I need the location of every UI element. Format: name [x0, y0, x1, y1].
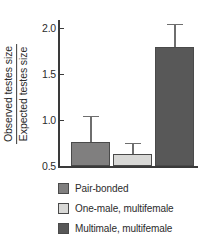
y-axis-tick-labels: 2.0 1.5 1.0 0.5	[30, 0, 56, 180]
y-axis-title-denominator: Expected testes size	[17, 44, 30, 144]
y-tick-mark-1-0	[60, 120, 65, 121]
plot-area	[58, 20, 198, 168]
y-tick-label-1-0: 1.0	[30, 115, 56, 125]
y-tick-label-2-0: 2.0	[30, 23, 56, 33]
error-bar-stem-pair-bonded	[90, 117, 91, 143]
y-tick-mark-1-5	[60, 74, 65, 75]
legend-swatch-one-male-multifemale	[58, 203, 69, 214]
y-axis-line	[58, 20, 60, 168]
legend-swatch-multimale-multifemale	[58, 223, 69, 234]
legend-item-pair-bonded: Pair-bonded	[58, 178, 206, 198]
y-axis-title-numerator: Observed testes size	[3, 44, 17, 144]
error-bar-cap-one-male-multifemale	[125, 143, 141, 144]
y-tick-mark-0-5	[60, 166, 65, 167]
legend-item-one-male-multifemale: One-male, multifemale	[58, 198, 206, 218]
error-bar-cap-pair-bonded	[83, 116, 99, 117]
bar-multimale-multifemale	[155, 47, 194, 167]
y-axis-title: Observed testes size Expected testes siz…	[0, 18, 34, 170]
legend: Pair-bonded One-male, multifemale Multim…	[58, 178, 206, 238]
y-tick-label-0-5: 0.5	[30, 161, 56, 171]
legend-item-multimale-multifemale: Multimale, multifemale	[58, 218, 206, 238]
bar-one-male-multifemale	[113, 154, 152, 166]
bar-chart-figure: Observed testes size Expected testes siz…	[0, 0, 206, 246]
error-bar-cap-multimale-multifemale	[167, 24, 183, 25]
legend-label-one-male-multifemale: One-male, multifemale	[75, 203, 174, 214]
legend-label-multimale-multifemale: Multimale, multifemale	[75, 223, 172, 234]
y-axis-title-fraction: Observed testes size Expected testes siz…	[3, 44, 30, 144]
legend-label-pair-bonded: Pair-bonded	[75, 183, 128, 194]
legend-swatch-pair-bonded	[58, 183, 69, 194]
bar-pair-bonded	[71, 142, 110, 167]
x-axis-line	[58, 166, 198, 168]
y-tick-mark-2-0	[60, 28, 65, 29]
error-bar-stem-multimale-multifemale	[174, 25, 175, 48]
y-tick-label-1-5: 1.5	[30, 69, 56, 79]
